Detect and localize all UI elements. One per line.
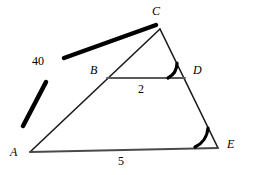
geometry-figure: A B C D E 40 2 5	[0, 0, 257, 175]
length-label-40: 40	[32, 55, 44, 67]
angle-arc-at-D	[168, 63, 177, 78]
length-label-2: 2	[138, 83, 144, 95]
vertex-label-B: B	[90, 64, 97, 76]
tick-upper-mark	[64, 25, 156, 58]
vertex-label-C: C	[152, 5, 160, 17]
length-label-5: 5	[118, 155, 124, 167]
angle-arc-at-E	[195, 128, 208, 147]
vertex-label-D: D	[193, 64, 202, 76]
tick-lower-mark	[23, 82, 46, 126]
base-AE	[30, 148, 218, 152]
vertex-label-E: E	[227, 138, 234, 150]
geometry-canvas	[0, 0, 257, 175]
vertex-label-A: A	[10, 146, 17, 158]
